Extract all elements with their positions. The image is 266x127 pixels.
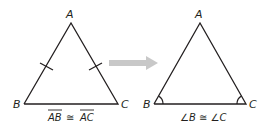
right-arrow-icon — [109, 56, 158, 70]
angle-arc-b-icon — [159, 96, 164, 104]
right-triangle-edges — [154, 23, 246, 104]
vertex-b-label: B — [143, 98, 151, 111]
right-triangle: A B C ∠B ≅ ∠C — [143, 8, 257, 123]
caption-congruent-symbol: ≅ — [66, 112, 74, 123]
vertex-c-label: C — [121, 98, 129, 111]
caption-segment-ac: AC — [79, 112, 94, 123]
isosceles-triangle-theorem-diagram: A B C AB ≅ AC A B C ∠B ≅ ∠C — [0, 0, 266, 127]
left-triangle-edges — [24, 23, 118, 104]
caption-angles-congruent: ∠B ≅ ∠C — [180, 112, 227, 123]
vertex-b-label: B — [13, 98, 21, 111]
angle-arc-c-icon — [237, 96, 242, 104]
vertex-a-label: A — [65, 8, 74, 21]
vertex-c-label: C — [249, 98, 257, 111]
caption-segment-ab: AB — [47, 112, 62, 123]
vertex-a-label: A — [194, 8, 203, 21]
